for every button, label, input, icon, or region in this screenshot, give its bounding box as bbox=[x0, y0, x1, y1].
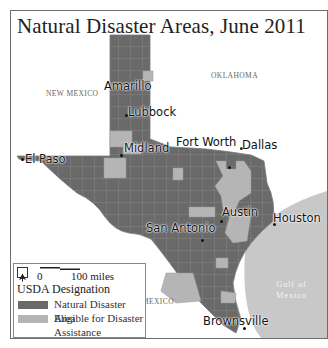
scale-end-label: 100 miles bbox=[71, 270, 114, 282]
region-mexico: MEXICO bbox=[142, 297, 174, 306]
swatch-natural-disaster-area bbox=[18, 301, 48, 309]
city-dallas: Dallas bbox=[242, 138, 277, 152]
city-marker bbox=[220, 220, 223, 223]
city-marker bbox=[120, 154, 123, 157]
scale-start-label: 0 bbox=[37, 270, 43, 282]
city-el-paso: El Paso bbox=[25, 152, 66, 166]
city-fort-worth: Fort Worth bbox=[176, 135, 236, 149]
map-frame: Natural Disaster Areas, June 2011 NEW ME… bbox=[10, 10, 328, 339]
north-arrow-icon bbox=[17, 267, 28, 278]
map-title: Natural Disaster Areas, June 2011 bbox=[17, 14, 306, 39]
city-san-antonio: San Antonio bbox=[146, 221, 216, 235]
map-legend: 0 100 miles USDA Designation Natural Dis… bbox=[13, 263, 146, 338]
region-new-mexico: NEW MEXICO bbox=[46, 89, 98, 98]
city-houston: Houston bbox=[273, 211, 321, 225]
region-gulf-of-mexico: Gulf of Mexico bbox=[276, 279, 307, 301]
swatch-eligible bbox=[18, 315, 48, 323]
region-oklahoma: OKLAHOMA bbox=[211, 71, 258, 80]
city-brownsville: Brownsville bbox=[203, 314, 269, 328]
legend-label-eligible: Eligible for Disaster Assistance bbox=[54, 311, 143, 339]
city-lubbock: Lubbock bbox=[128, 105, 176, 119]
city-austin: Austin bbox=[222, 205, 258, 219]
legend-title: USDA Designation bbox=[17, 282, 110, 297]
city-marker bbox=[201, 239, 204, 242]
city-marker bbox=[228, 166, 231, 169]
city-amarillo: Amarillo bbox=[104, 79, 151, 93]
city-marker bbox=[21, 158, 24, 161]
city-midland: Midland bbox=[124, 141, 169, 155]
